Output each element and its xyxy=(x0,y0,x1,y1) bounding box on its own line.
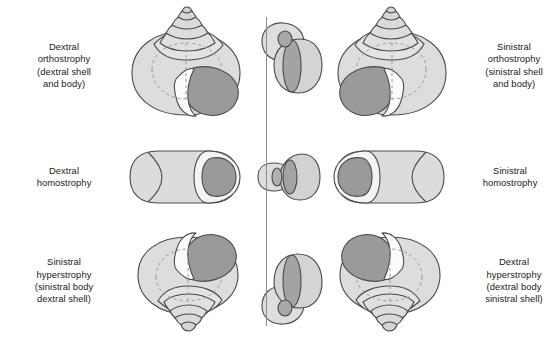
label-line: homostrophy xyxy=(450,177,547,189)
label-line: Sinistral xyxy=(450,165,547,177)
label-line: (sinistral shell xyxy=(454,66,547,78)
label-line: orthostrophy xyxy=(4,53,124,65)
dextral-homostrophic-shell xyxy=(124,140,250,214)
label-line: Dextral xyxy=(4,165,124,177)
dextral-hyperstrophic-shell xyxy=(326,225,454,337)
label-sinistral-orthostrophy: Sinistral orthostrophy (sinistral shell … xyxy=(454,41,547,91)
label-line: Sinistral xyxy=(454,41,547,53)
label-line: sinistral shell) xyxy=(454,293,547,305)
sinistral-hyperstrophic-shell xyxy=(124,225,252,337)
label-sinistral-hyperstrophy: Sinistral hyperstrophy (sinistral body d… xyxy=(4,256,124,306)
label-dextral-orthostrophy: Dextral orthostrophy (dextral shell and … xyxy=(4,41,124,91)
label-dextral-homostrophy: Dextral homostrophy xyxy=(4,165,124,190)
label-line: homostrophy xyxy=(4,177,124,189)
sinistral-homostrophic-shell xyxy=(324,140,450,214)
label-line: (dextral body xyxy=(454,281,547,293)
label-line: (dextral shell xyxy=(4,66,124,78)
label-line: and body) xyxy=(454,78,547,90)
label-line: dextral shell) xyxy=(4,293,124,305)
sinistral-orthostrophic-shell xyxy=(326,3,454,129)
label-line: hyperstrophy xyxy=(4,269,124,281)
coiling-axis-line xyxy=(266,17,268,326)
label-line: orthostrophy xyxy=(454,53,547,65)
orthostrophic-whorl-axis-section xyxy=(252,7,326,125)
hyperstrophic-whorl-axis-section xyxy=(252,222,326,339)
label-line: and body) xyxy=(4,78,124,90)
label-line: Sinistral xyxy=(4,256,124,268)
label-line: hyperstrophy xyxy=(454,269,547,281)
label-line: Dextral xyxy=(454,256,547,268)
label-line: Dextral xyxy=(4,41,124,53)
dextral-orthostrophic-shell xyxy=(124,3,252,129)
homostrophic-whorl-axis-section xyxy=(250,146,324,208)
label-line: (sinistral body xyxy=(4,281,124,293)
label-dextral-hyperstrophy: Dextral hyperstrophy (dextral body sinis… xyxy=(454,256,547,306)
label-sinistral-homostrophy: Sinistral homostrophy xyxy=(450,165,547,190)
